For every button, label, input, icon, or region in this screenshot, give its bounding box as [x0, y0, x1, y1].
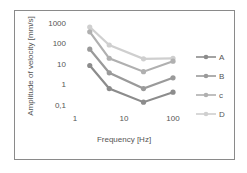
data-point	[141, 69, 146, 74]
data-point	[170, 90, 175, 95]
y-tick-label: 1	[62, 80, 67, 89]
legend: ABcD	[196, 53, 225, 119]
legend-marker-icon	[204, 93, 209, 98]
series-d	[87, 24, 175, 61]
legend-item-b: B	[196, 72, 224, 81]
x-tick-label: 10	[120, 114, 129, 123]
x-tick-label: 100	[166, 114, 180, 123]
legend-label: c	[219, 91, 223, 100]
data-point	[141, 56, 146, 61]
series-line	[90, 27, 173, 59]
legend-item-a: A	[196, 53, 225, 62]
data-point	[107, 70, 112, 75]
data-point	[141, 100, 146, 105]
data-point	[107, 42, 112, 47]
data-point	[107, 86, 112, 91]
x-axis-title: Frequency [Hz]	[97, 135, 151, 144]
data-point	[141, 86, 146, 91]
legend-label: B	[219, 72, 224, 81]
legend-item-d: D	[196, 110, 225, 119]
y-tick-label: 0,1	[55, 101, 67, 110]
y-axis-title: Amplitude of velocity [mm/s]	[26, 16, 35, 116]
legend-marker-icon	[204, 112, 209, 117]
legend-label: D	[219, 110, 225, 119]
data-point	[170, 75, 175, 80]
data-point	[170, 59, 175, 64]
x-tick-label: 1	[73, 114, 78, 123]
data-point	[107, 56, 112, 61]
legend-item-c: c	[196, 91, 223, 100]
y-tick-label: 1000	[48, 19, 66, 28]
legend-marker-icon	[204, 74, 209, 79]
data-point	[87, 29, 92, 34]
data-point	[87, 63, 92, 68]
plot-series	[87, 24, 175, 104]
y-tick-label: 100	[53, 39, 67, 48]
line-chart: 10001001010,1 110100 Amplitude of veloci…	[0, 0, 247, 173]
legend-marker-icon	[204, 55, 209, 60]
y-axis-ticks: 10001001010,1	[48, 19, 66, 110]
x-axis-ticks: 110100	[73, 114, 180, 123]
legend-label: A	[219, 53, 225, 62]
data-point	[87, 24, 92, 29]
y-tick-label: 10	[57, 60, 66, 69]
data-point	[87, 47, 92, 52]
